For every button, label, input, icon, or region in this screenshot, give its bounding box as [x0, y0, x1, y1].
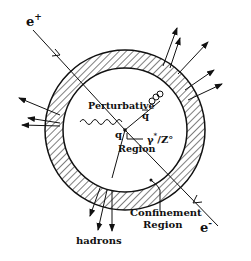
- positron-label: e+: [26, 12, 42, 29]
- svg-text:q: q: [142, 110, 149, 121]
- boson-label: γ*/Z°: [147, 131, 173, 145]
- confinement-label-line1: Confinement: [130, 207, 202, 218]
- annihilation-diagram: e+ e- Perturbative Region q q γ*/Z° Conf…: [0, 0, 251, 261]
- vertex-dot: [123, 128, 127, 132]
- electron-label: e-: [200, 218, 212, 235]
- antiquark-label: q: [142, 110, 149, 121]
- hadrons-label: hadrons: [76, 235, 122, 246]
- quark-label: q: [115, 129, 122, 140]
- confinement-label-line2: Region: [143, 219, 183, 230]
